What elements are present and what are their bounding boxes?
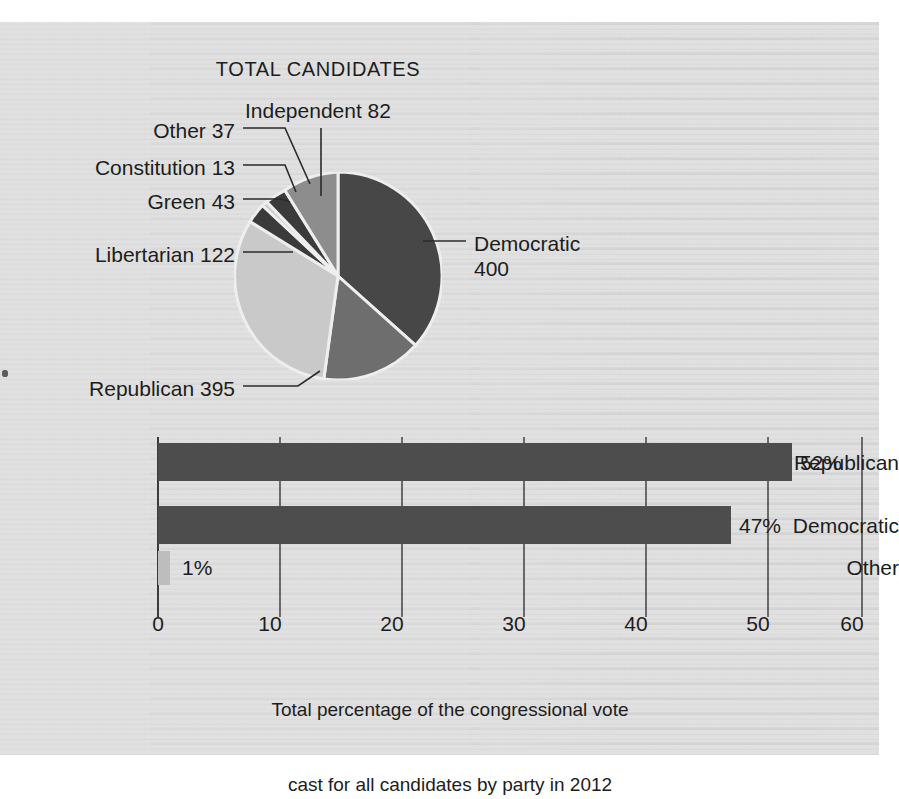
bar-category-other: Other: [753, 556, 899, 580]
bar-xtick-60: 60: [822, 612, 882, 636]
bar-value-other: 1%: [182, 556, 212, 580]
bar-xtick-50: 50: [728, 612, 788, 636]
bar-other: [158, 551, 170, 585]
bar-democratic: [158, 506, 731, 544]
bar-xtick-0: 0: [128, 612, 188, 636]
bar-value-democratic: 47%: [739, 514, 781, 538]
figure-caption-line-2: cast for all candidates by party in 2012: [140, 772, 760, 797]
figure-caption: Total percentage of the congressional vo…: [140, 646, 760, 799]
bar-republican: [158, 443, 792, 481]
bar-xtick-20: 20: [362, 612, 422, 636]
bar-xtick-10: 10: [240, 612, 300, 636]
figure-caption-line-1: Total percentage of the congressional vo…: [140, 697, 760, 722]
bar-xtick-40: 40: [606, 612, 666, 636]
bar-xtick-30: 30: [484, 612, 544, 636]
bar-value-republican: 52%: [800, 451, 842, 475]
